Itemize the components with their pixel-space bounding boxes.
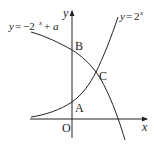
point-b-label: B: [75, 39, 83, 53]
svg-text:y: y: [8, 20, 14, 32]
svg-text:y: y: [119, 10, 125, 22]
equation-reflected-exponential: y = −2 x + a: [8, 19, 59, 32]
x-axis-label: x: [141, 120, 148, 134]
svg-text:+: +: [44, 20, 50, 32]
point-c-label: C: [99, 69, 107, 83]
point-a-label: A: [75, 101, 84, 115]
svg-text:2: 2: [134, 10, 140, 22]
equation-exponential: y = 2 x: [119, 9, 144, 22]
y-axis-label: y: [62, 6, 69, 20]
svg-text:=: =: [126, 10, 132, 22]
svg-text:x: x: [38, 19, 43, 27]
svg-text:a: a: [53, 20, 59, 32]
svg-text:−2: −2: [23, 20, 35, 32]
svg-text:x: x: [139, 9, 144, 17]
origin-label: O: [62, 121, 71, 135]
svg-text:=: =: [15, 20, 21, 32]
diagram-canvas: y x O B C A y = 2 x y = −2 x + a: [0, 0, 154, 146]
